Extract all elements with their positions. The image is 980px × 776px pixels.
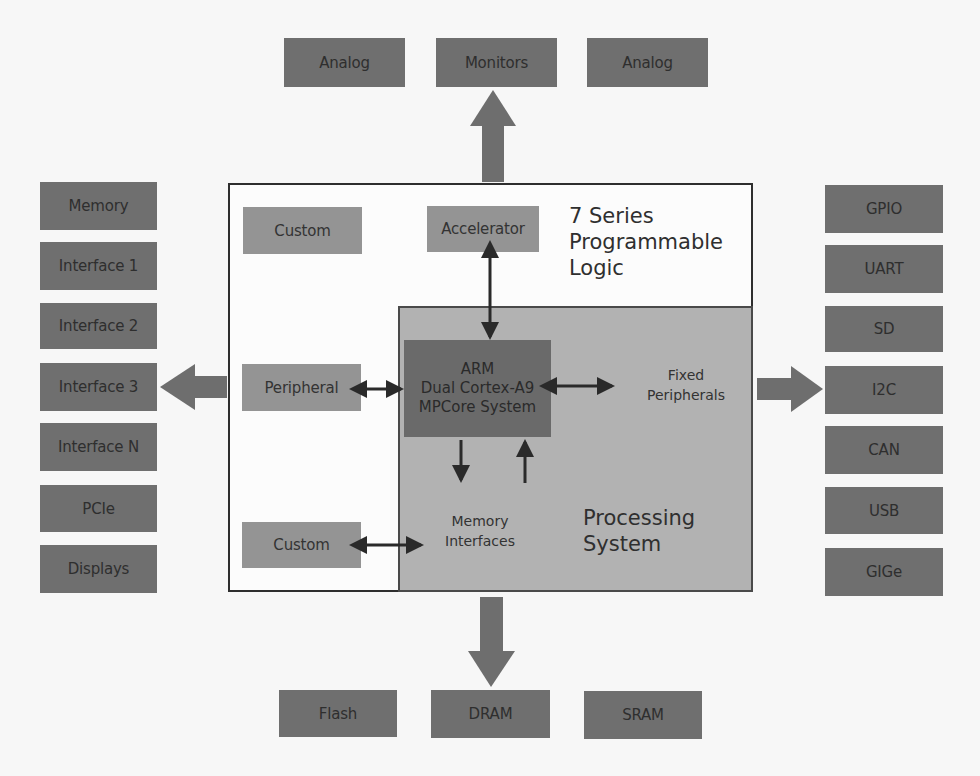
pl-block-custom-top: Custom	[243, 207, 362, 254]
right-block-can: CAN	[825, 426, 943, 474]
right-block-gpio: GPIO	[825, 185, 943, 233]
left-block-interface-n: Interface N	[40, 423, 157, 471]
bottom-block-sram: SRAM	[584, 691, 702, 739]
right-block-uart: UART	[825, 245, 943, 293]
big-arrow-right-to-io-icon	[757, 366, 823, 412]
ps-title-line-1: Processing	[583, 505, 695, 531]
right-block-gige: GIGe	[825, 548, 943, 596]
left-block-memory: Memory	[40, 182, 157, 230]
right-block-sd: SD	[825, 306, 943, 352]
memory-interfaces-line-2: Interfaces	[420, 531, 540, 551]
big-arrow-left-to-interfaces-icon	[160, 364, 227, 410]
left-block-pcie: PCIe	[40, 485, 157, 532]
arm-line-2: Dual Cortex-A9	[421, 379, 535, 398]
memory-interfaces-label: Memory Interfaces	[420, 511, 540, 551]
fixed-peripherals-line-2: Peripherals	[626, 385, 746, 405]
pl-block-custom-bottom: Custom	[242, 522, 361, 568]
big-arrow-down-to-dram-icon	[468, 597, 515, 687]
programmable-logic-title: 7 Series Programmable Logic	[569, 203, 723, 281]
top-block-monitors: Monitors	[436, 38, 557, 87]
big-arrow-up-to-monitors-icon	[470, 90, 516, 182]
top-block-analog-left: Analog	[284, 38, 405, 87]
left-block-interface-3: Interface 3	[40, 363, 157, 411]
right-block-i2c: I2C	[825, 366, 943, 414]
right-block-usb: USB	[825, 487, 943, 534]
arm-line-1: ARM	[461, 360, 495, 379]
pl-block-peripheral: Peripheral	[242, 364, 361, 411]
top-block-analog-right: Analog	[587, 38, 708, 87]
pl-title-line-1: 7 Series	[569, 203, 723, 229]
pl-title-line-3: Logic	[569, 255, 723, 281]
fixed-peripherals-label: Fixed Peripherals	[626, 365, 746, 405]
fixed-peripherals-line-1: Fixed	[626, 365, 746, 385]
arm-line-3: MPCore System	[419, 398, 536, 417]
ps-title-line-2: System	[583, 531, 695, 557]
processing-system-title: Processing System	[583, 505, 695, 557]
left-block-displays: Displays	[40, 545, 157, 593]
arm-cortex-a9-block: ARM Dual Cortex-A9 MPCore System	[404, 340, 551, 437]
left-block-interface-2: Interface 2	[40, 303, 157, 349]
memory-interfaces-line-1: Memory	[420, 511, 540, 531]
pl-title-line-2: Programmable	[569, 229, 723, 255]
pl-block-accelerator: Accelerator	[427, 206, 539, 252]
left-block-interface-1: Interface 1	[40, 242, 157, 290]
bottom-block-dram: DRAM	[431, 690, 550, 738]
bottom-block-flash: Flash	[279, 690, 397, 737]
